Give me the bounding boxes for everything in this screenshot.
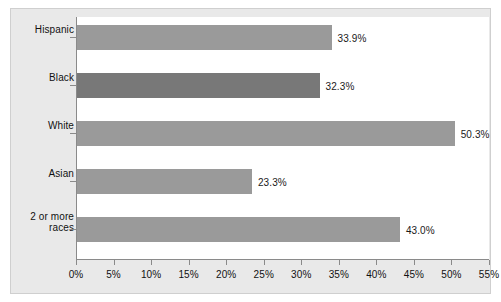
x-axis-labels: 0%5%10%15%20%25%30%35%40%45%50%55% <box>76 17 489 57</box>
x-tick-label: 25% <box>254 269 274 280</box>
bar-value-asian: 23.3% <box>258 176 287 187</box>
y-axis-label-white: White <box>12 120 74 131</box>
y-axis-label-two-or-more: 2 or more races <box>12 211 74 233</box>
x-tick <box>414 260 415 265</box>
x-axis-line <box>76 259 489 260</box>
x-tick <box>151 260 152 265</box>
bar-value-black: 32.3% <box>326 80 355 91</box>
x-tick <box>76 260 77 265</box>
bar-asian[interactable] <box>77 169 252 194</box>
x-tick-label: 0% <box>69 269 84 280</box>
y-axis-label-hispanic: Hispanic <box>12 24 74 35</box>
x-tick-label: 10% <box>141 269 161 280</box>
bar-two-or-more-races[interactable] <box>77 217 400 242</box>
y-axis-label-black: Black <box>12 72 74 83</box>
x-tick <box>339 260 340 265</box>
bar-value-two-or-more-races: 43.0% <box>406 224 435 235</box>
bar-white[interactable] <box>77 121 455 146</box>
x-tick-label: 5% <box>106 269 121 280</box>
x-tick-label: 35% <box>329 269 349 280</box>
x-tick-label: 15% <box>178 269 198 280</box>
x-tick <box>301 260 302 265</box>
x-tick-label: 40% <box>366 269 386 280</box>
x-tick <box>264 260 265 265</box>
bar-value-white: 50.3% <box>461 128 490 139</box>
x-tick-label: 20% <box>216 269 236 280</box>
x-tick <box>114 260 115 265</box>
x-tick-label: 45% <box>404 269 424 280</box>
chart-figure: Hispanic Black White Asian 2 or more rac… <box>10 8 491 294</box>
y-axis-label-asian: Asian <box>12 168 74 179</box>
x-tick <box>226 260 227 265</box>
x-tick-label: 50% <box>441 269 461 280</box>
y-axis-labels: Hispanic Black White Asian 2 or more rac… <box>11 17 74 260</box>
x-tick-label: 55% <box>479 269 499 280</box>
x-tick <box>489 260 490 265</box>
x-tick-label: 30% <box>291 269 311 280</box>
x-tick <box>376 260 377 265</box>
x-tick <box>189 260 190 265</box>
x-tick <box>451 260 452 265</box>
bar-black[interactable] <box>77 73 320 98</box>
